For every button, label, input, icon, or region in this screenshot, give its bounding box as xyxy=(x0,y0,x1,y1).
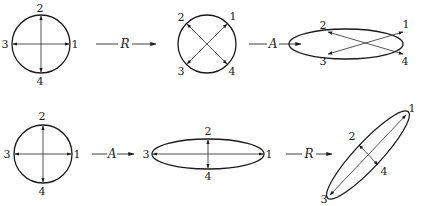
point-label-2: 2 xyxy=(39,110,46,123)
point-label-1: 1 xyxy=(403,18,410,31)
point-label-4: 4 xyxy=(381,165,388,178)
row-2: 2 3 1 4 A 2 3 1 4 R xyxy=(4,102,418,206)
circle-original-row1: 2 3 1 4 xyxy=(2,2,79,88)
point-label-4: 4 xyxy=(402,55,409,68)
point-label-3: 3 xyxy=(2,38,9,51)
operator-label-R: R xyxy=(303,147,313,161)
point-label-1: 1 xyxy=(72,38,79,51)
ellipse-outline xyxy=(289,29,403,59)
point-label-3: 3 xyxy=(320,55,327,68)
point-label-2: 2 xyxy=(320,19,327,32)
point-label-3: 3 xyxy=(4,148,11,161)
point-label-1: 1 xyxy=(409,102,416,115)
point-label-1: 1 xyxy=(266,148,273,161)
ellipse-rotated-row2: 1 2 3 4 xyxy=(318,102,417,206)
operator-label-A: A xyxy=(268,37,278,51)
point-label-3: 3 xyxy=(321,193,328,206)
circle-original-row2: 2 3 1 4 xyxy=(4,110,81,198)
point-label-4: 4 xyxy=(39,185,46,198)
point-label-4: 4 xyxy=(205,170,212,183)
point-label-2: 2 xyxy=(349,130,356,143)
operator-arrow-R-row2: R xyxy=(286,147,332,161)
diagram-canvas: 2 3 1 4 R 2 1 3 4 A xyxy=(0,0,421,206)
point-label-4: 4 xyxy=(37,75,44,88)
point-label-1: 1 xyxy=(74,148,81,161)
point-label-2: 2 xyxy=(205,125,212,138)
operator-arrow-R-row1: R xyxy=(96,37,156,51)
row-1: 2 3 1 4 R 2 1 3 4 A xyxy=(2,2,410,88)
point-label-1: 1 xyxy=(230,10,237,23)
operator-label-A: A xyxy=(107,147,117,161)
operator-arrow-A-row2: A xyxy=(92,147,134,161)
point-label-2: 2 xyxy=(178,11,185,24)
point-label-3: 3 xyxy=(143,148,150,161)
ellipse-stretched-row1: 2 1 3 4 xyxy=(289,18,410,68)
ellipse-stretched-row2: 2 3 1 4 xyxy=(143,125,273,183)
point-label-3: 3 xyxy=(178,65,185,78)
circle-rotated-row1: 2 1 3 4 xyxy=(178,10,237,78)
point-label-2: 2 xyxy=(37,2,44,15)
operator-label-R: R xyxy=(119,37,129,51)
point-label-4: 4 xyxy=(229,65,236,78)
